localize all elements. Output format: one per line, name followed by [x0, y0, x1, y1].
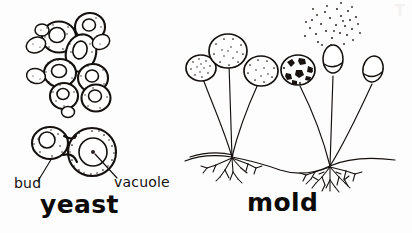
yeast-vacuole [86, 70, 99, 82]
sporangiophore-stalk [203, 79, 232, 157]
columella-releasing [323, 45, 343, 73]
sporangiophore-stalk [229, 64, 232, 157]
yeast-small-bud [62, 107, 75, 118]
caption-mold: mold [247, 190, 318, 215]
yeast-cell-cluster [24, 13, 112, 118]
vacuole-center-dot [91, 150, 95, 154]
yeast-vacuole [49, 28, 65, 43]
sporangium-intact [244, 56, 278, 86]
label-bud: bud [14, 176, 41, 190]
yeast-labeled-pair [32, 127, 117, 181]
figure-root: bud vacuole yeast mold T [0, 0, 412, 233]
sporangiophore-stalk [300, 86, 330, 166]
yeast-vacuole [52, 65, 67, 78]
released-spores [304, 2, 361, 46]
yeast-vacuole [89, 90, 102, 102]
page-bleed-through-text: T [395, 2, 406, 20]
sporangiophore-stalk [232, 84, 258, 157]
yeast-vacuole [83, 19, 96, 31]
columella-empty [361, 54, 386, 84]
label-vacuole: vacuole [114, 175, 170, 189]
yeast-small-bud [35, 24, 49, 36]
caption-yeast: yeast [40, 192, 119, 217]
sporangiophore-stalk [330, 84, 372, 166]
sporangiophore-stalk [330, 76, 333, 166]
mold-colony [185, 2, 395, 192]
bud-cell-vacuole [39, 132, 55, 148]
yeast-vacuole [57, 89, 69, 100]
